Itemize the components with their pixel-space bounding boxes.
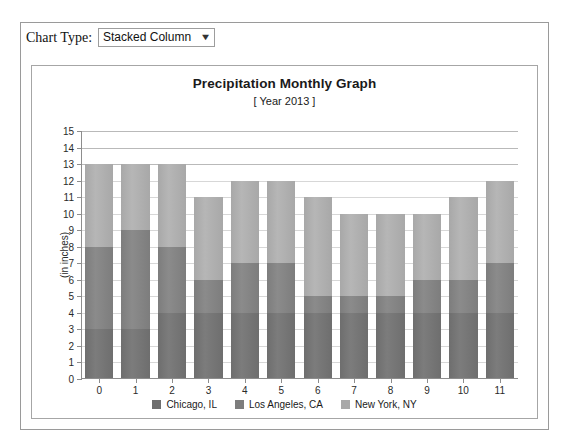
y-axis-tick	[77, 379, 82, 380]
x-axis-tick	[391, 378, 392, 383]
x-axis-tick	[500, 378, 501, 383]
legend-item[interactable]: Chicago, IL	[152, 399, 217, 410]
y-axis-tick-label: 1	[68, 357, 74, 368]
chart-type-select[interactable]: Stacked Column ▼	[98, 28, 215, 47]
x-axis-tick-label: 1	[133, 385, 139, 396]
bar-segment[interactable]	[267, 181, 295, 264]
bar-stack[interactable]	[486, 131, 514, 378]
y-axis-tick	[77, 263, 82, 264]
legend-item[interactable]: Los Angeles, CA	[235, 399, 323, 410]
x-axis-tick	[354, 378, 355, 383]
bar-stack[interactable]	[267, 131, 295, 378]
bar-segment[interactable]	[194, 313, 222, 379]
bar-segment[interactable]	[158, 164, 186, 247]
bar-segment[interactable]	[376, 214, 404, 297]
x-axis-tick-label: 10	[458, 385, 469, 396]
y-axis-tick	[77, 131, 82, 132]
bar-stack[interactable]	[304, 131, 332, 378]
bar-segment[interactable]	[413, 313, 441, 379]
x-axis-tick	[245, 378, 246, 383]
y-axis-tick	[77, 197, 82, 198]
bar-segment[interactable]	[85, 164, 113, 247]
x-axis-tick-label: 5	[279, 385, 285, 396]
bar-stack[interactable]	[194, 131, 222, 378]
chart-type-selected-value: Stacked Column	[103, 29, 191, 46]
bar-segment[interactable]	[304, 313, 332, 379]
chart-title: Precipitation Monthly Graph	[32, 76, 537, 91]
bar-segment[interactable]	[340, 214, 368, 297]
bar-segment[interactable]	[376, 296, 404, 313]
legend-label: New York, NY	[355, 399, 417, 410]
y-axis-tick	[77, 346, 82, 347]
x-axis-tick-label: 8	[388, 385, 394, 396]
plot-area: 0123456789101112131415 01234567891011 (i…	[81, 131, 518, 379]
y-axis-tick	[77, 164, 82, 165]
x-axis-tick-label: 0	[96, 385, 102, 396]
bar-segment[interactable]	[121, 164, 149, 230]
bar-segment[interactable]	[194, 197, 222, 280]
x-axis-tick-label: 7	[351, 385, 357, 396]
bar-segment[interactable]	[194, 280, 222, 313]
bar-stack[interactable]	[340, 131, 368, 378]
y-axis-tick-label: 12	[63, 175, 74, 186]
chart-type-label: Chart Type:	[26, 30, 92, 46]
bar-segment[interactable]	[413, 214, 441, 280]
bar-segment[interactable]	[304, 197, 332, 296]
y-axis-tick-label: 13	[63, 159, 74, 170]
y-axis-tick	[77, 214, 82, 215]
bar-segment[interactable]	[267, 313, 295, 379]
bar-segment[interactable]	[486, 263, 514, 313]
y-axis-tick-label: 0	[68, 374, 74, 385]
bar-segment[interactable]	[231, 181, 259, 264]
bar-segment[interactable]	[304, 296, 332, 313]
legend-label: Los Angeles, CA	[249, 399, 323, 410]
bar-segment[interactable]	[231, 263, 259, 313]
bar-segment[interactable]	[85, 247, 113, 330]
bar-segment[interactable]	[486, 313, 514, 379]
bar-segment[interactable]	[340, 296, 368, 313]
legend-swatch-icon	[152, 400, 161, 409]
top-cutoff-text-label: · · · · · · ·	[44, 0, 85, 4]
y-axis-tick-label: 11	[64, 192, 74, 203]
y-axis-tick-label: 14	[63, 142, 74, 153]
y-axis-line	[81, 131, 82, 379]
y-axis-tick-label: 4	[68, 307, 74, 318]
bar-segment[interactable]	[449, 280, 477, 313]
bar-stack[interactable]	[449, 131, 477, 378]
bar-segment[interactable]	[121, 329, 149, 379]
bar-segment[interactable]	[449, 197, 477, 280]
bar-segment[interactable]	[121, 230, 149, 329]
bar-segment[interactable]	[231, 313, 259, 379]
bar-stack[interactable]	[121, 131, 149, 378]
x-axis-tick-label: 9	[424, 385, 430, 396]
bar-segment[interactable]	[340, 313, 368, 379]
bar-segment[interactable]	[267, 263, 295, 313]
y-axis-tick-label: 3	[68, 324, 74, 335]
bar-stack[interactable]	[85, 131, 113, 378]
y-axis-tick	[77, 181, 82, 182]
bar-segment[interactable]	[449, 313, 477, 379]
bar-stack[interactable]	[158, 131, 186, 378]
y-axis-tick-label: 5	[68, 291, 74, 302]
x-axis-tick	[463, 378, 464, 383]
bar-segment[interactable]	[413, 280, 441, 313]
bar-segment[interactable]	[85, 329, 113, 379]
chart-frame: Precipitation Monthly Graph [ Year 2013 …	[31, 65, 538, 419]
bar-segment[interactable]	[376, 313, 404, 379]
x-axis-tick-label: 11	[495, 385, 505, 396]
legend-item[interactable]: New York, NY	[341, 399, 417, 410]
y-axis-tick	[77, 280, 82, 281]
x-axis-tick	[427, 378, 428, 383]
x-axis-tick	[208, 378, 209, 383]
x-axis-tick-label: 3	[206, 385, 212, 396]
chart-type-toolbar: Chart Type: Stacked Column ▼	[26, 28, 215, 47]
bar-stack[interactable]	[376, 131, 404, 378]
bar-stack[interactable]	[413, 131, 441, 378]
bar-segment[interactable]	[158, 247, 186, 313]
bar-stack[interactable]	[231, 131, 259, 378]
bar-segment[interactable]	[486, 181, 514, 264]
bar-segment[interactable]	[158, 313, 186, 379]
x-axis-tick-label: 4	[242, 385, 248, 396]
y-axis-tick-label: 10	[63, 208, 74, 219]
x-axis-tick	[281, 378, 282, 383]
